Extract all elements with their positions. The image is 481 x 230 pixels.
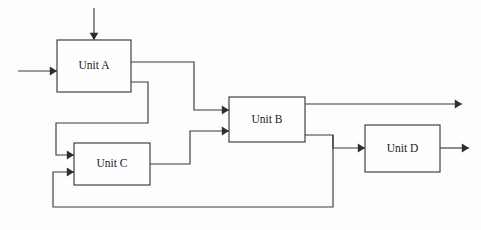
unit-block-b[interactable]: Unit B xyxy=(229,97,305,142)
unit-block-c[interactable]: Unit C xyxy=(74,143,150,185)
stream-unit-b-to-unit-d xyxy=(305,135,365,148)
arrowhead-feed-left-into-unit-a xyxy=(50,67,57,76)
stream-unit-c-to-unit-b xyxy=(150,131,229,164)
arrowhead-unit-d-product-outlet xyxy=(462,144,469,153)
arrowhead-unit-b-to-unit-d xyxy=(358,144,365,153)
arrowhead-unit-b-product-outlet xyxy=(455,100,462,109)
flow-diagram-canvas: Unit A Unit B Unit C Unit D xyxy=(0,0,481,230)
unit-d-label: Unit D xyxy=(387,142,419,154)
arrowhead-unit-c-to-unit-b xyxy=(222,127,229,136)
arrowhead-unit-a-to-unit-b xyxy=(222,106,229,115)
unit-layer: Unit A Unit B Unit C Unit D xyxy=(57,40,440,185)
arrowhead-recycle-unit-b-to-unit-c xyxy=(67,168,74,177)
unit-c-label: Unit C xyxy=(97,157,128,169)
unit-block-d[interactable]: Unit D xyxy=(365,125,440,172)
unit-block-a[interactable]: Unit A xyxy=(57,40,131,92)
arrowhead-unit-a-to-unit-c xyxy=(67,151,74,160)
process-flow-diagram: Unit A Unit B Unit C Unit D xyxy=(0,0,481,230)
unit-a-label: Unit A xyxy=(79,59,111,71)
unit-b-label: Unit B xyxy=(252,113,283,125)
stream-unit-a-to-unit-b xyxy=(131,62,229,110)
arrowhead-feed-top-into-unit-a xyxy=(90,33,99,40)
